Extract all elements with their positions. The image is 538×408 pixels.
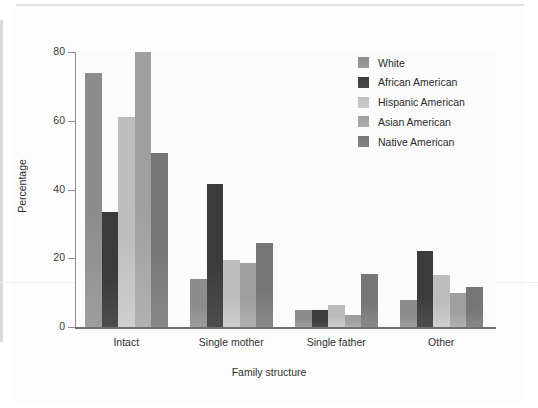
bar: [466, 287, 483, 327]
y-axis-tick-value: 0: [25, 321, 65, 331]
y-axis-tick: [68, 190, 75, 191]
bar: [433, 275, 450, 327]
y-axis-tick: [68, 258, 75, 259]
y-axis-tick-label: 60: [20, 115, 65, 125]
legend-label: African American: [378, 76, 457, 88]
y-axis-label: Percentage: [16, 141, 28, 231]
x-axis-tick-label: Intact: [66, 336, 186, 348]
x-axis-tick-label: Other: [381, 336, 501, 348]
y-axis-tick-label: 0: [20, 321, 65, 331]
bar: [256, 243, 273, 327]
legend-swatch-icon: [358, 116, 369, 127]
bar: [85, 73, 102, 327]
bar: [345, 315, 362, 327]
bar: [223, 260, 240, 327]
legend-item: Native American: [358, 133, 508, 151]
y-axis-tick-label: 80: [20, 46, 65, 56]
legend-label: Asian American: [378, 116, 451, 128]
legend-item: African American: [358, 74, 508, 92]
y-axis-tick: [68, 52, 75, 53]
x-axis-line: [75, 327, 496, 329]
legend-item: Hispanic American: [358, 93, 508, 111]
y-axis-tick-value: 60: [25, 115, 65, 125]
chart-figure: 020406080 Percentage IntactSingle mother…: [0, 0, 538, 408]
x-axis-label: Family structure: [0, 366, 538, 378]
legend-label: Native American: [378, 136, 454, 148]
bar: [361, 274, 378, 327]
bar: [312, 310, 329, 327]
bar: [240, 263, 257, 327]
bar: [400, 300, 417, 328]
y-axis-tick-label: 20: [20, 252, 65, 262]
bar: [417, 251, 434, 327]
scan-edge-left: [0, 20, 3, 342]
bar: [207, 184, 224, 327]
bar: [328, 305, 345, 327]
legend: WhiteAfrican AmericanHispanic AmericanAs…: [358, 54, 508, 152]
y-axis-line: [75, 52, 76, 328]
legend-label: Hispanic American: [378, 96, 465, 108]
legend-swatch-icon: [358, 57, 369, 68]
bar: [450, 293, 467, 327]
y-axis-tick: [68, 121, 75, 122]
y-axis-tick-value: 20: [25, 252, 65, 262]
y-axis-tick-value: 80: [25, 46, 65, 56]
legend-item: White: [358, 54, 508, 72]
legend-swatch-icon: [358, 136, 369, 147]
bar: [190, 279, 207, 327]
y-axis-tick-value: 40: [25, 184, 65, 194]
y-axis-tick: [68, 327, 75, 328]
legend-label: White: [378, 57, 405, 69]
legend-swatch-icon: [358, 77, 369, 88]
x-axis-tick-label: Single father: [276, 336, 396, 348]
bar: [118, 117, 135, 327]
x-axis-tick-label: Single mother: [171, 336, 291, 348]
bar: [295, 310, 312, 327]
bar: [102, 212, 119, 327]
bar: [151, 153, 168, 327]
legend-swatch-icon: [358, 97, 369, 108]
legend-item: Asian American: [358, 113, 508, 131]
bar: [135, 52, 152, 327]
scan-edge-top: [16, 4, 524, 6]
